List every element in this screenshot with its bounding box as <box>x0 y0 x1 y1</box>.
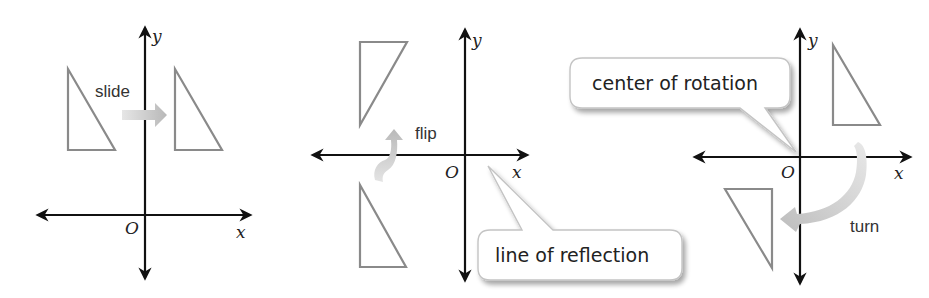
reflected-triangle <box>360 185 406 267</box>
y-axis-label: y <box>151 26 162 46</box>
translated-triangle <box>175 69 222 150</box>
origin-label: O <box>781 162 795 182</box>
y-axis-label: y <box>471 30 482 50</box>
slide-label: slide <box>95 82 130 101</box>
turn-label: turn <box>850 217 879 236</box>
x-axis-label: x <box>512 162 522 182</box>
panel-translation: y x O slide <box>38 26 250 278</box>
callout-text: line of reflection <box>495 244 649 266</box>
x-axis-label: x <box>236 222 246 242</box>
origin-label: O <box>445 162 459 182</box>
y-axis-label: y <box>807 30 818 50</box>
flip-label: flip <box>415 124 437 143</box>
callout-text: center of rotation <box>592 72 758 94</box>
rotated-triangle <box>725 189 772 268</box>
original-triangle <box>360 42 407 125</box>
transformations-diagram: y x O slide y x O flip line of reflectio… <box>0 0 929 298</box>
x-axis-label: x <box>894 163 904 183</box>
original-triangle <box>833 45 880 125</box>
origin-label: O <box>125 218 139 238</box>
